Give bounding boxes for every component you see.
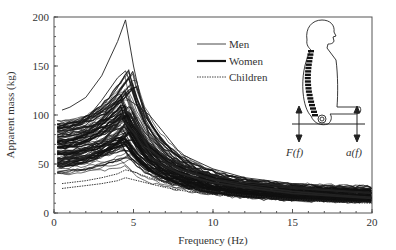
x-axis-label: Frequency (Hz) <box>178 234 248 247</box>
vertebra <box>312 114 318 116</box>
accel-arrow-down-icon <box>354 135 360 142</box>
vertebra <box>305 77 311 79</box>
vertebra <box>306 60 312 62</box>
vertebra <box>307 97 313 99</box>
y-axis-label: Apparent mass (kg) <box>4 71 17 158</box>
vertebra <box>307 53 313 55</box>
vertebra <box>305 70 311 72</box>
vertebra <box>309 104 315 106</box>
apparent-mass-chart: 05101520050100150200 Frequency (Hz) Appa… <box>0 0 396 250</box>
data-curves <box>57 20 372 204</box>
legend-label-men: Men <box>229 38 250 50</box>
force-arrow-down-icon <box>296 135 302 142</box>
vertebra <box>308 101 314 103</box>
accel-label: a(f) <box>346 146 362 159</box>
x-tick-label: 15 <box>287 216 299 228</box>
vertebra <box>305 80 311 82</box>
x-tick-label: 5 <box>131 216 137 228</box>
vertebra <box>306 87 312 89</box>
y-tick-label: 0 <box>44 207 50 219</box>
legend: Men Women Children <box>197 38 268 83</box>
torso-front <box>330 60 361 114</box>
y-tick-label: 150 <box>33 60 50 72</box>
x-tick-label: 20 <box>367 216 379 228</box>
pelvis-bone-inner <box>320 117 324 121</box>
x-tick-label: 10 <box>208 216 220 228</box>
y-tick-label: 50 <box>38 158 50 170</box>
vertebra <box>305 74 311 76</box>
vertebra <box>306 64 312 66</box>
force-label: F(f) <box>285 146 303 159</box>
y-tick-label: 200 <box>33 11 50 23</box>
vertebra <box>311 111 317 113</box>
vertebra <box>307 94 313 96</box>
neck-back <box>307 40 311 50</box>
force-arrow-up-icon <box>296 106 302 113</box>
vertebra <box>310 107 316 109</box>
legend-label-women: Women <box>229 55 263 67</box>
vertebra <box>305 84 311 86</box>
legend-label-children: Children <box>229 71 268 83</box>
vertebra <box>308 50 314 52</box>
pelvis-bone <box>318 115 326 123</box>
vertebra <box>305 67 311 69</box>
vertebra <box>307 57 313 59</box>
seat-and-arrows <box>292 106 365 142</box>
x-tick-label: 0 <box>51 216 57 228</box>
vertebra <box>306 90 312 92</box>
y-tick-label: 100 <box>33 109 50 121</box>
